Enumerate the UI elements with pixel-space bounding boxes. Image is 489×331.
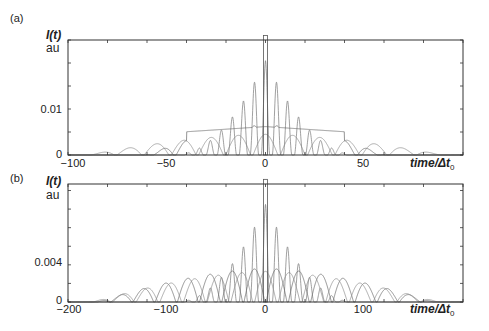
series-0-line: [68, 204, 463, 302]
chart-canvas: [0, 0, 489, 331]
series-2-line: [68, 271, 463, 302]
axes-frame: [68, 40, 463, 155]
plot-area-b: [68, 179, 463, 302]
series-1-line: [68, 269, 463, 302]
plot-area-a: [68, 35, 463, 155]
series-0-line: [68, 61, 463, 155]
series-2-line: [68, 134, 463, 155]
series-1-line: [68, 126, 463, 155]
axes-frame: [68, 184, 463, 302]
center-marker: [264, 179, 268, 302]
